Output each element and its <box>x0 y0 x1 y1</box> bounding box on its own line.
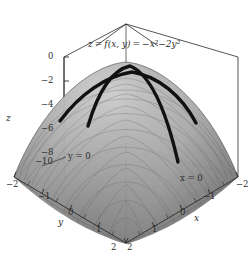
surface-formula-label: z=f(x, y)=−x²−2y² <box>88 40 180 49</box>
formula-z: z <box>88 39 93 49</box>
x-axis-name: x <box>194 214 199 223</box>
formula-rhs: −x²−2y² <box>142 39 180 49</box>
x-tick-1: 1 <box>152 225 157 234</box>
y-tick-1: −1 <box>38 192 51 201</box>
z-tick-2: −4 <box>41 100 54 109</box>
y-tick-4: 2 <box>111 243 116 252</box>
y-axis-name: y <box>58 218 63 227</box>
z-tick-5: −10 <box>35 157 53 166</box>
formula-eq2: = <box>133 39 141 49</box>
z-tick-1: −2 <box>41 76 54 85</box>
trace-y-equals-0-label: y = 0 <box>68 152 91 161</box>
formula-args: (x, y) <box>108 39 131 49</box>
x-tick-4: −2 <box>236 180 249 189</box>
y-tick-2: 0 <box>68 208 73 217</box>
y-tick-0: −2 <box>6 180 19 189</box>
z-tick-0: 0 <box>48 52 53 61</box>
formula-eq1: = <box>95 39 103 49</box>
trace-x-equals-0-label: x = 0 <box>180 174 203 183</box>
x-tick-0: 2 <box>127 243 132 252</box>
y-tick-3: 1 <box>96 225 101 234</box>
x-tick-3: −1 <box>203 192 216 201</box>
z-axis-name: z <box>6 114 11 123</box>
z-tick-3: −6 <box>41 124 54 133</box>
surface-plot-figure: z=f(x, y)=−x²−2y² z 0 −2 −4 −6 −8 −10 −2… <box>0 0 252 265</box>
x-tick-2: 0 <box>180 208 185 217</box>
